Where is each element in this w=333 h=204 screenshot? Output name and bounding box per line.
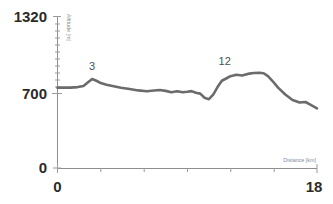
y-axis-zero-label: 0 — [39, 159, 47, 176]
annotation-label-12: 12 — [219, 55, 231, 67]
chart-canvas: 1320 700 0 0 18 Altitude [m] Distance [k… — [0, 0, 333, 204]
elevation-profile-chart: 1320 700 0 0 18 Altitude [m] Distance [k… — [0, 0, 333, 204]
x-axis-title: Distance [km] — [283, 157, 316, 163]
y-axis-mid-label: 700 — [22, 85, 47, 102]
annotation-label-3: 3 — [89, 60, 95, 72]
x-axis-zero-label: 0 — [53, 178, 61, 195]
x-axis-max-label: 18 — [306, 178, 323, 195]
elevation-profile-line — [58, 73, 318, 109]
y-axis-title: Altitude [m] — [66, 14, 72, 41]
y-axis-max-label: 1320 — [14, 8, 47, 25]
